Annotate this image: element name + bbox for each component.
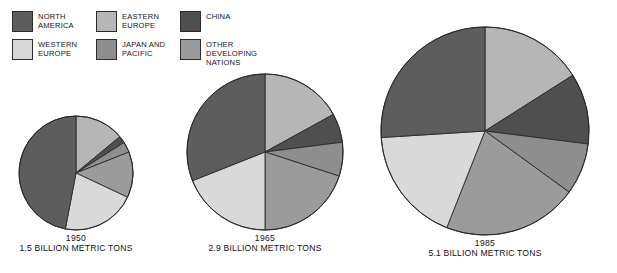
pie-total-label: 1.5 BILLION METRIC TONS [17,243,135,253]
pie-year-label: 1965 [185,233,345,243]
legend-swatch-western-europe [12,39,33,60]
legend-label-japan-pacific: JAPAN AND PACIFIC [122,39,165,58]
legend-item-china: CHINA [180,11,276,35]
legend-swatch-north-america [12,11,33,32]
legend-item-eastern-europe: EASTERN EUROPE [96,11,192,35]
legend-label-eastern-europe: EASTERN EUROPE [122,11,159,30]
pie-svg-1965 [185,72,345,232]
legend-label-china: CHINA [206,11,231,21]
legend-label-north-america: NORTH AMERICA [38,11,74,30]
chart-canvas: NORTH AMERICA WESTERN EUROPE EASTERN EUR… [0,0,617,273]
pie-total-label: 2.9 BILLION METRIC TONS [185,243,345,253]
pie-chart-1985: 19855.1 BILLION METRIC TONS [379,25,591,259]
legend-column-3: CHINA OTHER DEVELOPING NATIONS [180,11,276,67]
legend-swatch-japan-pacific [96,39,117,60]
legend-column-2: EASTERN EUROPE JAPAN AND PACIFIC [96,11,192,67]
legend-item-other-developing: OTHER DEVELOPING NATIONS [180,39,276,63]
pie-caption-1985: 19855.1 BILLION METRIC TONS [379,238,591,259]
pie-chart-1950: 19501.5 BILLION METRIC TONS [17,114,135,254]
legend-swatch-other-developing [180,39,201,60]
pie-chart-1965: 19652.9 BILLION METRIC TONS [185,72,345,254]
pie-svg-1985 [379,25,591,237]
legend-swatch-china [180,11,201,32]
legend-item-japan-pacific: JAPAN AND PACIFIC [96,39,192,63]
legend-item-north-america: NORTH AMERICA [12,11,108,35]
pie-svg-1950 [17,114,135,232]
legend-label-western-europe: WESTERN EUROPE [38,39,77,58]
legend-swatch-eastern-europe [96,11,117,32]
pie-caption-1965: 19652.9 BILLION METRIC TONS [185,233,345,254]
pie-total-label: 5.1 BILLION METRIC TONS [379,248,591,258]
legend-label-other-developing: OTHER DEVELOPING NATIONS [206,39,276,68]
legend-item-western-europe: WESTERN EUROPE [12,39,108,63]
pie-caption-1950: 19501.5 BILLION METRIC TONS [17,233,135,254]
pie-year-label: 1950 [17,233,135,243]
pie-year-label: 1985 [379,238,591,248]
legend-column-1: NORTH AMERICA WESTERN EUROPE [12,11,108,67]
chart-legend: NORTH AMERICA WESTERN EUROPE EASTERN EUR… [12,11,302,63]
pie-slice-north-america [19,116,76,229]
pie-slice-north-america [381,27,485,138]
